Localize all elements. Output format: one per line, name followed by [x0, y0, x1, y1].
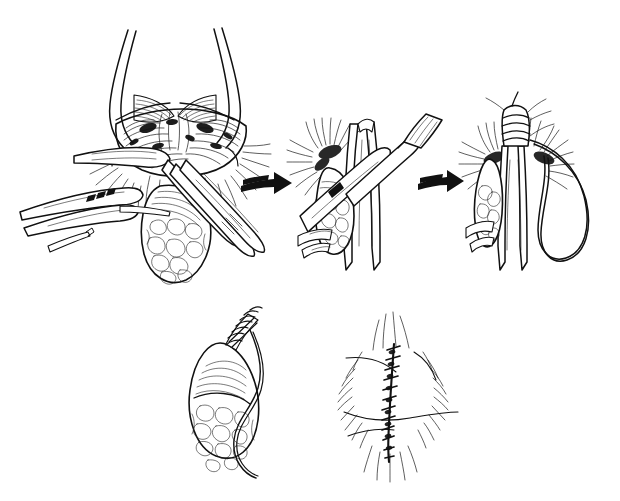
surgical-figure: Operative technique sequence: inguinal h…	[0, 0, 620, 501]
illustration-canvas	[0, 0, 620, 501]
